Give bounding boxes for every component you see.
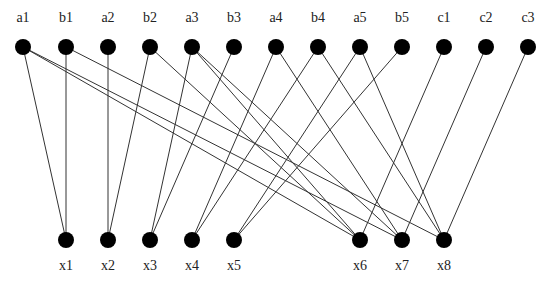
edge-a4-x7 xyxy=(276,47,402,240)
edge-layer xyxy=(23,47,528,240)
node-b1 xyxy=(58,39,74,55)
node-label-x4: x4 xyxy=(185,258,199,273)
node-label-c2: c2 xyxy=(479,10,492,25)
node-x5 xyxy=(226,232,242,248)
node-label-a3: a3 xyxy=(185,10,198,25)
node-b2 xyxy=(142,39,158,55)
node-x7 xyxy=(394,232,410,248)
node-label-a4: a4 xyxy=(269,10,282,25)
edge-a1-x7 xyxy=(23,47,402,240)
node-c2 xyxy=(478,39,494,55)
node-b3 xyxy=(226,39,242,55)
node-x1 xyxy=(58,232,74,248)
edge-a3-x6 xyxy=(192,47,360,240)
node-a3 xyxy=(184,39,200,55)
node-x4 xyxy=(184,232,200,248)
node-b5 xyxy=(394,39,410,55)
node-label-x2: x2 xyxy=(101,258,115,273)
node-label-x5: x5 xyxy=(227,258,241,273)
node-x3 xyxy=(142,232,158,248)
node-label-b1: b1 xyxy=(59,10,73,25)
node-label-b5: b5 xyxy=(395,10,409,25)
node-label-x1: x1 xyxy=(59,258,73,273)
node-label-x3: x3 xyxy=(143,258,157,273)
node-a4 xyxy=(268,39,284,55)
edge-a5-x5 xyxy=(234,47,360,240)
bipartite-graph: a1b1a2b2a3b3a4b4a5b5c1c2c3x1x2x3x4x5x6x7… xyxy=(0,0,552,289)
node-label-b2: b2 xyxy=(143,10,157,25)
edge-b4-x4 xyxy=(192,47,318,240)
node-label-a5: a5 xyxy=(353,10,366,25)
edge-a1-x1 xyxy=(23,47,66,240)
node-a5 xyxy=(352,39,368,55)
edge-b5-x5 xyxy=(234,47,402,240)
node-label-c1: c1 xyxy=(437,10,450,25)
node-label-x8: x8 xyxy=(437,258,451,273)
node-label-b3: b3 xyxy=(227,10,241,25)
node-b4 xyxy=(310,39,326,55)
node-x2 xyxy=(100,232,116,248)
edge-b3-x3 xyxy=(150,47,234,240)
node-label-b4: b4 xyxy=(311,10,325,25)
node-x6 xyxy=(352,232,368,248)
node-c3 xyxy=(520,39,536,55)
node-x8 xyxy=(436,232,452,248)
node-label-c3: c3 xyxy=(521,10,534,25)
node-a1 xyxy=(15,39,31,55)
edge-c2-x7 xyxy=(402,47,486,240)
edge-b2-x2 xyxy=(108,47,150,240)
edge-b4-x8 xyxy=(318,47,444,240)
node-c1 xyxy=(436,39,452,55)
node-label-a2: a2 xyxy=(101,10,114,25)
edge-a4-x4 xyxy=(192,47,276,240)
node-label-a1: a1 xyxy=(16,10,29,25)
edge-a3-x3 xyxy=(150,47,192,240)
node-label-x7: x7 xyxy=(395,258,409,273)
node-label-x6: x6 xyxy=(353,258,367,273)
node-a2 xyxy=(100,39,116,55)
edge-c3-x8 xyxy=(444,47,528,240)
